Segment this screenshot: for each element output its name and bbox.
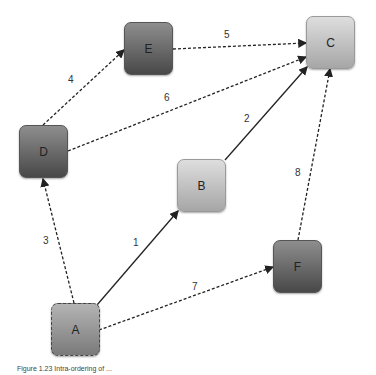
edge-label-8: 8 <box>295 167 301 178</box>
node-c-label: C <box>326 36 335 50</box>
node-d-label: D <box>39 145 48 159</box>
edge-label-4: 4 <box>68 74 74 85</box>
edge-label-7: 7 <box>192 281 198 292</box>
node-b-label: B <box>197 179 205 193</box>
edge-b-c <box>225 67 307 160</box>
figure-caption: Figure 1.23 Intra-ordering of ... <box>17 365 112 372</box>
edge-e-c <box>173 43 306 49</box>
edge-label-5: 5 <box>224 29 230 40</box>
edge-a-b <box>97 211 178 305</box>
edge-f-c <box>298 69 330 240</box>
node-d[interactable]: D <box>19 125 68 178</box>
edge-d-c <box>68 57 306 151</box>
node-e[interactable]: E <box>124 22 173 75</box>
node-a-label: A <box>71 323 79 337</box>
edge-label-2: 2 <box>244 113 250 124</box>
node-e-label: E <box>144 42 152 56</box>
node-a[interactable]: A <box>51 303 100 356</box>
edge-label-1: 1 <box>133 237 139 248</box>
edge-d-e <box>43 50 124 125</box>
edge-a-f <box>99 267 273 330</box>
node-b[interactable]: B <box>177 159 226 212</box>
node-f[interactable]: F <box>273 240 322 293</box>
node-f-label: F <box>294 260 301 274</box>
node-c[interactable]: C <box>306 16 355 69</box>
edge-label-6: 6 <box>164 92 170 103</box>
edge-label-3: 3 <box>43 235 49 246</box>
